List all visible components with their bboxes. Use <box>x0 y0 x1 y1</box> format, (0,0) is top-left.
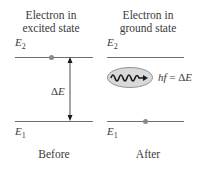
delta-e-label: ΔE <box>51 85 65 97</box>
after-e2-label: E2 <box>107 36 118 51</box>
after-caption: After <box>103 148 193 160</box>
before-e1-label: E1 <box>15 125 26 140</box>
before-caption: Before <box>9 148 99 160</box>
before-title-line1: Electron in <box>6 9 96 22</box>
before-e2-label: E2 <box>15 36 26 51</box>
before-title: Electron in excited state <box>6 9 96 35</box>
before-e2-level-line <box>15 57 93 58</box>
before-e1-level-line <box>15 121 93 122</box>
photon-wave-icon <box>107 67 155 88</box>
panel-before: Electron in excited state E2 ΔE E1 Befor… <box>0 0 99 169</box>
after-e2-level-line <box>107 57 184 58</box>
delta-e-double-arrow <box>66 57 74 121</box>
after-title: Electron in ground state <box>103 9 193 35</box>
before-title-line2: excited state <box>6 22 96 35</box>
after-e1-label: E1 <box>107 125 118 140</box>
photon-energy-label: hf = ΔE <box>158 71 192 83</box>
after-title-line2: ground state <box>103 22 193 35</box>
before-electron-dot <box>49 55 54 60</box>
after-title-line1: Electron in <box>103 9 193 22</box>
panel-after: Electron in ground state E2 hf = ΔE E1 A… <box>99 0 199 169</box>
after-electron-dot <box>143 119 148 124</box>
